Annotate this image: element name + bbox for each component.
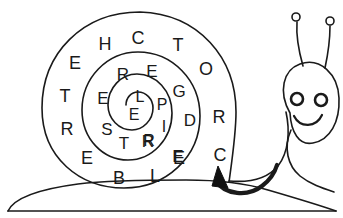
left-antenna-tip [292,13,300,21]
shell-letter-outer-4: O [199,60,213,78]
shell-letter-outer-3: T [173,36,184,54]
shell-letter-outer-11: R [61,120,74,138]
shell-letter-outer-5: R [213,108,226,126]
direction-arrow-head [212,166,228,188]
shell-letter-middle-21: E [97,90,108,107]
shell-letter-outer-10: E [81,149,93,167]
shell-letter-outer-8: L [150,167,160,185]
left-eye [291,93,303,105]
shell-letter-middle-16: D [184,112,196,129]
neck [287,130,334,192]
left-antenna [297,22,303,66]
body-foot [8,180,336,211]
shell-letter-middle-14: E [146,63,157,80]
line-art-canvas [0,0,343,218]
shell-letter-middle-20: S [101,121,112,138]
right-antenna-tip [326,17,334,25]
shell-letter-inner-25: R [143,133,155,149]
right-eye [315,94,327,106]
shell-letter-inner-22: L [136,89,145,105]
shell-letter-core-26: E [129,107,140,123]
snail-letter-spiral-illustration: EHCTORCELBERTREGDERTSELPIRE [0,0,343,218]
right-antenna [325,26,330,68]
shell-letter-middle-17: E [172,148,183,165]
shell-letter-outer-12: T [60,87,71,105]
shell-letter-middle-15: G [172,83,185,100]
shell-letter-outer-6: C [214,146,227,164]
shell-letter-outer-2: C [132,29,145,47]
direction-arrow-tail [216,165,277,193]
shell-letter-middle-13: R [117,66,129,83]
shell-letter-outer-0: E [69,54,81,72]
shell-letter-inner-24: I [162,119,166,135]
shell-letter-outer-1: H [99,35,112,53]
shell-letter-inner-23: P [157,97,168,113]
shell-letter-middle-19: T [119,135,129,152]
body-right-contour [229,112,288,181]
shell-letter-outer-9: B [113,169,125,187]
smile [294,115,322,125]
